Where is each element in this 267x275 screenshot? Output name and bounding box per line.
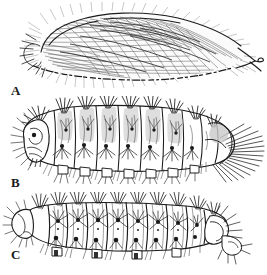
- figure-plate: A: [0, 0, 267, 275]
- panel-c-illustration: [0, 192, 267, 272]
- larva-c-head-capsule: [12, 209, 34, 238]
- panel-b-illustration: [0, 96, 267, 184]
- panel-c: C: [0, 192, 267, 272]
- panel-a-illustration: [0, 0, 267, 100]
- panel-c-label: C: [11, 248, 20, 261]
- panel-a: A: [0, 0, 267, 100]
- larva-c-terminal-segment: [205, 216, 242, 256]
- larva-b-eye: [32, 133, 36, 137]
- panel-b-label: B: [11, 176, 20, 189]
- panel-b: B: [0, 96, 267, 184]
